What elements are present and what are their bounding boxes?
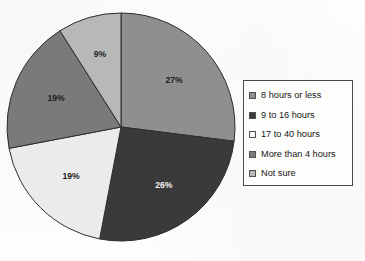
legend-item[interactable]: 9 to 16 hours (249, 106, 352, 126)
chart-legend: 8 hours or less9 to 16 hours17 to 40 hou… (243, 80, 353, 186)
legend-swatch-icon (249, 151, 256, 158)
legend-swatch-icon (249, 131, 256, 138)
pie-slice-value-label: 27% (165, 75, 183, 85)
legend-item[interactable]: 8 hours or less (249, 86, 352, 106)
chart-screenshot: 27%26%19%19%9% 8 hours or less9 to 16 ho… (0, 0, 365, 261)
legend-swatch-icon (249, 92, 256, 99)
legend-item-label: Not sure (261, 169, 296, 178)
legend-item-label: 8 hours or less (261, 91, 321, 100)
legend-item-label: 17 to 40 hours (261, 130, 320, 139)
pie-slice-value-label: 9% (94, 49, 107, 59)
pie-slice-value-label: 19% (62, 171, 80, 181)
legend-item-label: 9 to 16 hours (261, 111, 315, 120)
legend-swatch-icon (249, 170, 256, 177)
pie-slice-group (7, 13, 235, 241)
legend-item-label: More than 4 hours (261, 150, 336, 159)
pie-slice-value-label: 26% (155, 180, 173, 190)
legend-swatch-icon (249, 112, 256, 119)
legend-item[interactable]: 17 to 40 hours (249, 125, 352, 145)
legend-item[interactable]: More than 4 hours (249, 145, 352, 165)
pie-slice-value-label: 19% (47, 93, 65, 103)
legend-item[interactable]: Not sure (249, 164, 352, 184)
